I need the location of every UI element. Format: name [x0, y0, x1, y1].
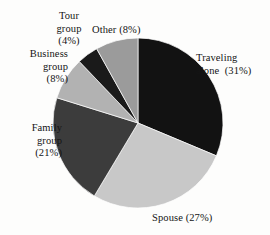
pie-label-family-group: Familygroup(21%): [2, 122, 62, 160]
pie-label-family-group-line1: Family: [32, 122, 62, 133]
pie-label-traveling-alone-line1: Traveling: [196, 52, 237, 63]
pie-label-tour-group-line1: Tour: [59, 10, 79, 21]
pie-chart-figure: Travelingalone (31%) Spouse (27%) Family…: [0, 0, 270, 235]
pie-label-business-group-line2: group: [43, 61, 68, 72]
pie-label-family-group-line2: group: [37, 135, 62, 146]
pie-label-spouse-line1: Spouse (27%): [152, 212, 212, 223]
pie-label-tour-group-line2: group: [57, 23, 82, 34]
pie-label-other: Other (8%): [92, 24, 141, 37]
pie-label-traveling-alone: Travelingalone (31%): [196, 52, 251, 77]
pie-label-other-line1: Other (8%): [92, 24, 141, 35]
pie-label-business-group: Businessgroup(8%): [2, 48, 68, 86]
pie-label-traveling-alone-line2: alone (31%): [196, 65, 251, 76]
pie-label-tour-group-line3: (4%): [58, 35, 79, 46]
pie-label-tour-group: Tourgroup(4%): [46, 10, 92, 48]
pie-label-business-group-line3: (8%): [47, 73, 68, 84]
pie-label-family-group-line3: (21%): [35, 147, 62, 158]
pie-label-spouse: Spouse (27%): [152, 212, 212, 225]
pie-label-business-group-line1: Business: [30, 48, 68, 59]
